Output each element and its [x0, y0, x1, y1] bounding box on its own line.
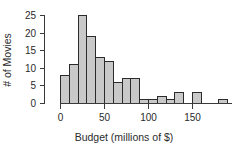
- x-tick-label: 50: [99, 112, 111, 123]
- histogram-bar: [113, 82, 122, 103]
- histogram-bar: [193, 93, 202, 104]
- histogram-bar: [131, 79, 140, 104]
- histogram-bar: [149, 100, 158, 104]
- histogram-plot: 050100150 0510152025 Budget (millions of…: [0, 0, 247, 145]
- x-tick-label: 150: [184, 112, 201, 123]
- histogram-bar: [175, 93, 184, 104]
- histogram-bar: [87, 37, 96, 104]
- histogram-bar: [166, 100, 175, 104]
- y-tick-label: 15: [25, 45, 37, 56]
- histogram-bar: [96, 58, 105, 104]
- histogram-bar: [69, 65, 78, 104]
- y-tick-label: 25: [25, 10, 37, 21]
- histogram-bar: [219, 100, 228, 104]
- histogram-bar: [122, 79, 131, 104]
- bars-group: [61, 16, 228, 104]
- histogram-figure: 050100150 0510152025 Budget (millions of…: [0, 0, 247, 145]
- histogram-bar: [78, 16, 87, 104]
- y-tick-label: 5: [30, 80, 36, 91]
- y-axis-ticks: 0510152025: [25, 10, 45, 109]
- histogram-bar: [61, 75, 70, 103]
- x-axis-ticks: 050100150: [58, 104, 202, 123]
- y-tick-label: 20: [25, 28, 37, 39]
- y-axis-title: # of Movies: [1, 33, 13, 87]
- y-tick-label: 0: [30, 98, 36, 109]
- histogram-bar: [105, 61, 114, 103]
- histogram-bar: [157, 96, 166, 103]
- x-axis-title: Budget (millions of $): [75, 131, 174, 143]
- y-tick-label: 10: [25, 63, 37, 74]
- x-tick-label: 0: [58, 112, 64, 123]
- histogram-bar: [140, 100, 149, 104]
- x-tick-label: 100: [140, 112, 157, 123]
